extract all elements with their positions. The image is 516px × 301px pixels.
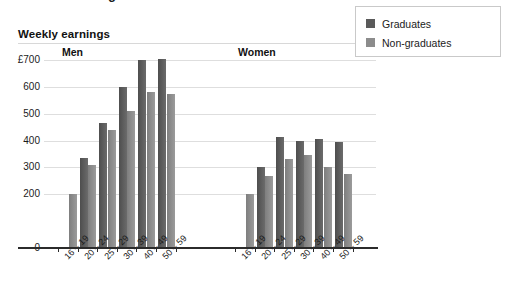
x-axis-baseline: [18, 247, 378, 249]
bar-men-non-graduates-2024: [88, 165, 96, 248]
bar-women-non-graduates-5059: [344, 174, 352, 248]
y-axis-tick-label: £700: [6, 55, 40, 65]
bar-women-graduates-2529: [276, 137, 284, 248]
gridline: [44, 60, 376, 61]
bar-women-non-graduates-2529: [285, 159, 293, 248]
legend-item-graduates: Graduates: [366, 14, 500, 33]
group-heading-men: Men: [62, 46, 83, 58]
gridline: [44, 87, 376, 88]
bar-women-graduates-4049: [315, 139, 323, 248]
y-axis-tick-label: 600: [6, 82, 40, 92]
bar-men-graduates-2529: [99, 123, 107, 248]
bar-women-non-graduates-3039: [304, 155, 312, 248]
gridline: [44, 141, 376, 142]
bar-men-graduates-4049: [138, 60, 146, 248]
bar-women-non-graduates-4049: [324, 167, 332, 248]
top-cropped-text: g: [108, 0, 116, 1]
legend-label-non-graduates: Non-graduates: [382, 38, 451, 48]
y-axis-tick-label: 500: [6, 109, 40, 119]
chart-title: Weekly earnings: [18, 28, 110, 40]
gridline: [44, 114, 376, 115]
legend-label-graduates: Graduates: [382, 19, 431, 29]
legend-swatch-graduates: [366, 19, 375, 28]
plot-area: [44, 60, 376, 248]
bar-men-non-graduates-2529: [108, 130, 116, 248]
bar-men-graduates-3039: [119, 87, 127, 248]
bar-men-non-graduates-5059: [167, 94, 175, 248]
group-heading-women: Women: [238, 46, 276, 58]
bar-men-non-graduates-3039: [127, 111, 135, 248]
legend-swatch-non-graduates: [366, 38, 375, 47]
x-axis-labels: 16 – 1920 – 2425 – 2930 – 3940 – 4950 – …: [0, 249, 516, 301]
legend-item-non-graduates: Non-graduates: [366, 33, 500, 52]
bar-women-non-graduates-2024: [265, 176, 273, 249]
chart-legend: Graduates Non-graduates: [355, 6, 501, 57]
y-axis-tick-label: 200: [6, 189, 40, 199]
bar-men-graduates-5059: [158, 59, 166, 248]
bar-men-non-graduates-4049: [147, 92, 155, 248]
y-axis-tick-label: 300: [6, 162, 40, 172]
y-axis: £7006005004003002000: [0, 60, 40, 250]
y-axis-tick-label: 400: [6, 136, 40, 146]
